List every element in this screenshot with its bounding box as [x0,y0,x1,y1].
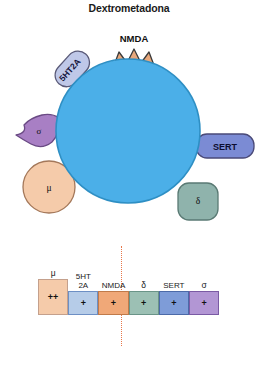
figure-title: Dextrometadona [0,2,258,14]
affinity-grid: ++μ+5HT 2A+NMDA+δ+SERT+σ [38,279,219,315]
receptor-mu-label: μ [46,183,51,193]
affinity-table-area: ++μ+5HT 2A+NMDA+δ+SERT+σ [0,258,258,370]
receptor-diagram: 5HT2A NMDA σ SERT μ δ [0,18,258,233]
affinity-label-sigma: σ [183,281,225,290]
receptor-sigma[interactable]: σ [16,114,59,146]
drug-core-circle [56,59,200,203]
affinity-cell-delta: + [129,291,159,315]
receptor-delta-label: δ [196,196,201,206]
receptor-delta[interactable]: δ [178,183,218,220]
affinity-cell-ht2a: + [68,291,98,315]
affinity-cell-sert: + [159,291,189,315]
receptor-sigma-label: σ [37,126,42,136]
affinity-cell-nmda: + [98,291,128,315]
receptor-sert-label: SERT [213,142,238,152]
figure-root: Dextrometadona 5HT2A NMDA σ SERT μ [0,0,258,370]
receptor-sert[interactable]: SERT [196,134,254,158]
affinity-cell-sigma: + [189,291,219,315]
receptor-nmda-caption: NMDA [120,33,149,44]
